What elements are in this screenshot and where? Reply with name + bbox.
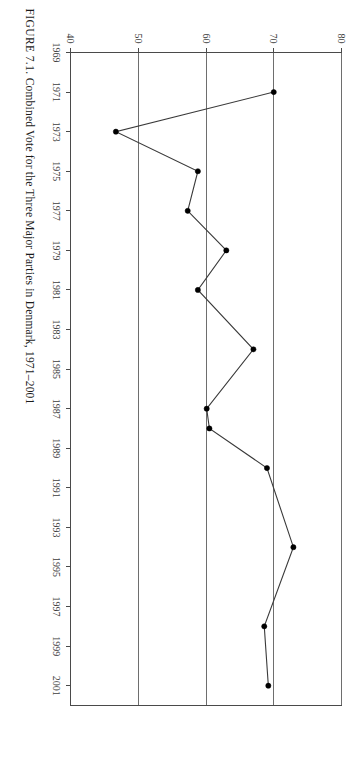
x-tick-label: 1977 [50,200,61,220]
x-tick-label: 1987 [50,398,61,418]
x-tick-label: 1991 [50,477,61,497]
x-tick-label: 1981 [50,279,61,299]
data-point-marker [195,287,200,292]
chart-plot-area: 1969197119731975197719791981198319851987… [0,0,353,765]
x-tick-label: 1999 [50,636,61,656]
data-point-marker [265,683,270,688]
x-tick-label: 1979 [50,240,61,260]
figure-caption: FIGURE 7.1. Combined Vote for the Three … [23,8,35,758]
x-tick-label: 1969 [50,42,61,62]
data-point-marker [271,89,276,94]
y-tick-label: 80 [336,33,347,43]
x-tick-label: 1995 [50,556,61,576]
data-point-marker [290,544,295,549]
line-chart: 1969197119731975197719791981198319851987… [0,0,353,765]
data-point-marker [185,208,190,213]
data-point-marker [264,465,269,470]
data-point-marker [261,623,266,628]
x-tick-label: 1985 [50,359,61,379]
figure-container: 1969197119731975197719791981198319851987… [0,0,353,765]
x-tick-label: 2001 [50,675,61,695]
data-point-marker [113,129,118,134]
data-point-marker [195,168,200,173]
y-tick-label: 60 [200,33,211,43]
y-tick-label: 40 [65,33,76,43]
x-tick-label: 1975 [50,161,61,181]
series-line [115,92,293,686]
y-tick-label: 70 [268,33,279,43]
data-point-marker [204,406,209,411]
data-point-marker [206,425,211,430]
x-tick-label: 1973 [50,121,61,141]
x-tick-label: 1993 [50,517,61,537]
x-tick-label: 1997 [50,596,61,616]
x-tick-label: 1971 [50,82,61,102]
x-tick-label: 1983 [50,319,61,339]
figure-caption-text: Combined Vote for the Three Major Partie… [23,77,35,404]
y-tick-label: 50 [132,33,143,43]
figure-caption-label: FIGURE 7.1. [23,8,35,74]
x-tick-label: 1989 [50,438,61,458]
rotated-page-content: 1969197119731975197719791981198319851987… [0,0,353,765]
